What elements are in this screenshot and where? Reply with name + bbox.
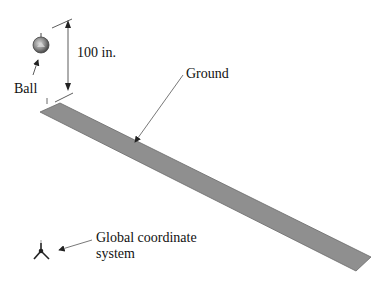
coordinate-system-label-line1: Global coordinate bbox=[96, 230, 197, 246]
coordinate-triad-icon bbox=[34, 240, 49, 259]
ground-leader bbox=[135, 75, 183, 142]
diagram-canvas: 100 in. Ball Ground Global coordinate sy… bbox=[0, 0, 390, 287]
dimension-line bbox=[47, 19, 73, 104]
ball-label: Ball bbox=[14, 81, 37, 97]
ground-label: Ground bbox=[186, 66, 229, 82]
ball-leader bbox=[33, 60, 38, 75]
dimension-label: 100 in. bbox=[77, 45, 116, 61]
coord-leader bbox=[59, 240, 92, 250]
ball-icon bbox=[33, 33, 49, 53]
ground-plank bbox=[40, 103, 371, 271]
coordinate-system-label-line2: system bbox=[96, 246, 135, 262]
